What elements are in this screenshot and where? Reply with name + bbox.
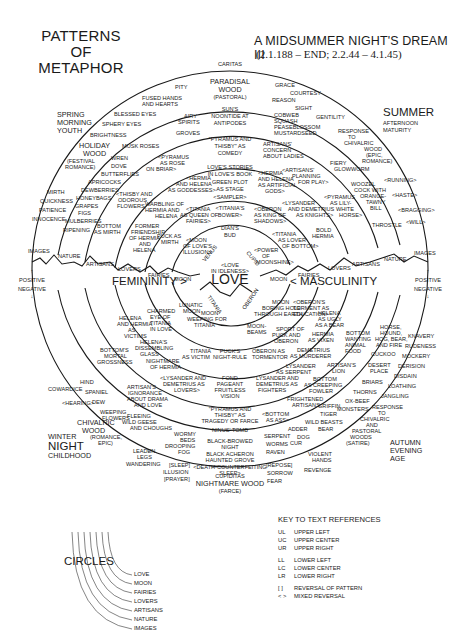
svg-text:JANGLING: JANGLING: [381, 393, 409, 399]
svg-text:IN LOVE'S BOOK: IN LOVE'S BOOK: [208, 171, 253, 177]
down-arrow-icon: ↓: [31, 293, 34, 299]
circles-legend-title: CIRCLES: [64, 555, 114, 567]
svg-text:LOVERS: LOVERS: [118, 266, 141, 272]
svg-text:SIGHT: SIGHT: [295, 105, 313, 111]
svg-text:OF HERMIA: OF HERMIA: [150, 364, 181, 370]
svg-text:THISBY" AS: THISBY" AS: [215, 143, 246, 149]
up-arrow-icon: ↑: [31, 268, 34, 274]
svg-text:ROMANCE): ROMANCE): [362, 158, 393, 164]
svg-text:LOVERS: LOVERS: [328, 265, 351, 271]
caritas-label: CARITAS: [218, 61, 242, 67]
svg-text:HIND: HIND: [80, 379, 94, 385]
svg-text:<BRAGGING>: <BRAGGING>: [398, 207, 435, 213]
svg-text:DERISION: DERISION: [398, 363, 425, 369]
svg-text:AND FIRE: AND FIRE: [376, 342, 402, 348]
svg-text:(FARCE): (FARCE): [219, 488, 242, 494]
svg-text:AND LOVE: AND LOVE: [134, 402, 163, 408]
legend-moon: MOON: [134, 580, 152, 586]
svg-text:<HEARING>: <HEARING>: [62, 400, 94, 406]
svg-text:YOUTH: YOUTH: [57, 126, 82, 135]
svg-text:NATURE: NATURE: [384, 256, 407, 262]
svg-text:ARTISANS: ARTISANS: [352, 261, 380, 267]
svg-text:MOON: MOON: [270, 276, 287, 282]
svg-text:OF BOTTOM>: OF BOTTOM>: [282, 243, 318, 249]
svg-text:NIGHT: NIGHT: [221, 444, 239, 450]
svg-text:GRACE: GRACE: [275, 82, 295, 88]
svg-text:BILL: BILL: [370, 205, 382, 211]
svg-text:GROSSNESS: GROSSNESS: [97, 359, 133, 365]
svg-text:LOVE'S STORIES: LOVE'S STORIES: [207, 164, 253, 170]
lower-center-section: PUCK'S NIGHT-RULE FOND PAGEANT FRUITLESS…: [193, 348, 266, 494]
svg-text:<HASTE>: <HASTE>: [392, 192, 417, 198]
svg-text:FOG: FOG: [178, 449, 190, 455]
svg-text:MUSTARDSEED: MUSTARDSEED: [274, 130, 316, 136]
svg-text:GRAPES: GRAPES: [75, 203, 99, 209]
svg-text:HERMIA: HERMIA: [312, 233, 334, 239]
svg-text:RUDENESS: RUDENESS: [405, 343, 436, 349]
svg-text:PATIENCE: PATIENCE: [39, 207, 66, 213]
svg-text:LEGS: LEGS: [137, 454, 152, 460]
svg-text:NATURE: NATURE: [58, 253, 81, 259]
legend-images: IMAGES: [134, 625, 157, 631]
svg-text:AS STAGE: AS STAGE: [216, 186, 244, 192]
svg-text:ARTISANS: ARTISANS: [292, 402, 320, 408]
svg-text:TITANIA: TITANIA: [194, 322, 215, 328]
svg-text:MOONSHINE>: MOONSHINE>: [256, 259, 294, 265]
legend-lovers: LOVERS: [134, 598, 158, 604]
svg-text:MATURITY: MATURITY: [383, 127, 411, 133]
svg-text:<WILL>: <WILL>: [406, 219, 426, 225]
positive-left: POSITIVE: [19, 277, 45, 283]
svg-text:(SATIRE): (SATIRE): [346, 440, 370, 446]
svg-text:DISDAIN: DISDAIN: [394, 373, 417, 379]
svg-text:AS A BEAR: AS A BEAR: [315, 322, 344, 328]
down-arrow-icon: ↓: [427, 293, 430, 299]
legend-love: LOVE: [134, 571, 149, 577]
svg-text:AS VICTIM: AS VICTIM: [182, 354, 210, 360]
svg-text:AS VIXEN: AS VIXEN: [308, 337, 334, 343]
svg-text:MUSK ROSES: MUSK ROSES: [122, 143, 160, 149]
svg-text:DIAN'S: DIAN'S: [221, 225, 239, 231]
svg-text:RIPENING: RIPENING: [63, 227, 90, 233]
svg-text:FOOD: FOOD: [345, 348, 361, 354]
svg-text:BUTTERFLIES: BUTTERFLIES: [101, 171, 139, 177]
svg-text:MOON: MOON: [183, 308, 200, 314]
svg-text:BUD: BUD: [224, 232, 236, 238]
svg-text:FEAR: FEAR: [267, 478, 282, 484]
svg-text:BRIARS: BRIARS: [362, 379, 383, 385]
svg-text:FAIRIES>: FAIRIES>: [186, 218, 211, 224]
svg-text:IMAGES: IMAGES: [28, 248, 50, 254]
svg-text:WOOD: WOOD: [218, 85, 241, 94]
svg-text:SPHERY EYES: SPHERY EYES: [102, 121, 142, 127]
positive-right: POSITIVE: [415, 277, 441, 283]
svg-text:MONSTERS: MONSTERS: [337, 406, 369, 412]
ring-labels-left: IMAGES NATURE ARTISANS LOVERS FAIRIES MO…: [28, 248, 191, 282]
svg-text:AS MURDERER: AS MURDERER: [290, 353, 331, 359]
svg-text:DEWBERRIES: DEWBERRIES: [81, 187, 119, 193]
svg-text:COMEDY: COMEDY: [218, 150, 243, 156]
svg-text:APRICOCKS: APRICOCKS: [88, 179, 121, 185]
svg-text:ANTIPODES: ANTIPODES: [214, 120, 247, 126]
svg-text:HANDS: HANDS: [312, 457, 332, 463]
svg-text:DEW: DEW: [92, 399, 106, 405]
svg-text:THROSTLE: THROSTLE: [372, 222, 402, 228]
svg-text:AS MIRTH: AS MIRTH: [94, 229, 121, 235]
svg-text:HELENA: HELENA: [155, 213, 178, 219]
svg-text:GLASS: GLASS: [140, 351, 159, 357]
svg-text:IMAGES: IMAGES: [414, 250, 436, 256]
svg-text:EPIC): EPIC): [98, 440, 113, 446]
circles-legend-arcs: [72, 532, 132, 629]
svg-text:CUCKOO: CUCKOO: [371, 351, 396, 357]
lower-right-section: MOON BORING HOLE THROUGH EARTH MOON- BEA…: [247, 299, 436, 484]
svg-text:LOVERS>: LOVERS>: [174, 387, 200, 393]
svg-text:ILLUSION>: ILLUSION>: [183, 249, 212, 255]
svg-text:AS ASS>: AS ASS>: [266, 417, 289, 423]
svg-text:HONEYBAGS: HONEYBAGS: [76, 195, 112, 201]
svg-text:REASON: REASON: [272, 97, 296, 103]
svg-text:AFTERNOON: AFTERNOON: [383, 120, 418, 126]
svg-text:WORMS: WORMS: [266, 441, 288, 447]
svg-text:TIGER: TIGER: [320, 411, 337, 417]
svg-text:IN LOVE: IN LOVE: [150, 326, 172, 332]
svg-text:THORNS: THORNS: [353, 389, 377, 395]
svg-text:FOWLER: FOWLER: [309, 388, 333, 394]
svg-text:TRAGEDY OR FARCE: TRAGEDY OR FARCE: [201, 418, 258, 424]
